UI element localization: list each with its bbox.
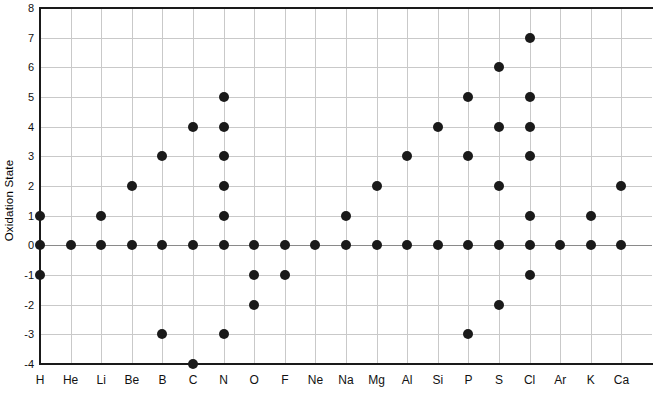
y-axis-tick-labels: 876543210-1-2-3-4	[0, 8, 34, 364]
data-point-Ar-0	[555, 240, 565, 250]
x-axis-tick-labels: HHeLiBeBCNOFNeNaMgAlSiPSClArKCa	[0, 374, 659, 390]
gridline-x-B	[162, 8, 163, 364]
data-point-Cl-4	[525, 122, 535, 132]
gridline-x-Li	[101, 8, 102, 364]
x-tick-label-C: C	[189, 374, 198, 386]
x-tick-label-Li: Li	[97, 374, 106, 386]
y-tick-label-4: 4	[4, 121, 34, 132]
gridline-x-P	[468, 8, 469, 364]
data-point-F--1	[280, 270, 290, 280]
data-point-Cl-5	[525, 92, 535, 102]
data-point-Ne-0	[310, 240, 320, 250]
data-point-K-1	[586, 211, 596, 221]
y-tick-label-8: 8	[4, 3, 34, 14]
data-point-N-4	[219, 122, 229, 132]
gridline-x-Al	[407, 8, 408, 364]
gridline-x-Ar	[560, 8, 561, 364]
x-tick-label-Ar: Ar	[554, 374, 566, 386]
y-axis-line	[39, 7, 41, 365]
y-tick-label-3: 3	[4, 151, 34, 162]
oxidation-state-scatter-chart: Oxidation State 876543210-1-2-3-4 HHeLiB…	[0, 0, 659, 401]
data-point-S--2	[494, 300, 504, 310]
x-tick-label-Be: Be	[124, 374, 139, 386]
data-point-C-0	[188, 240, 198, 250]
data-point-Cl--1	[525, 270, 535, 280]
data-point-Cl-0	[525, 240, 535, 250]
data-point-Ca-0	[616, 240, 626, 250]
gridline-x-Ne	[315, 8, 316, 364]
data-point-Li-0	[96, 240, 106, 250]
data-point-P-0	[463, 240, 473, 250]
data-point-C-4	[188, 122, 198, 132]
gridline-x-C	[193, 8, 194, 364]
data-point-Na-0	[341, 240, 351, 250]
y-tick-label--1: -1	[4, 270, 34, 281]
y-tick-label-7: 7	[4, 32, 34, 43]
gridline-x-He	[71, 8, 72, 364]
data-point-P-5	[463, 92, 473, 102]
x-axis-line	[39, 363, 653, 365]
data-point-Be-0	[127, 240, 137, 250]
data-point-Cl-1	[525, 211, 535, 221]
data-point-N-2	[219, 181, 229, 191]
data-point-Si-4	[433, 122, 443, 132]
x-tick-label-Mg: Mg	[368, 374, 385, 386]
gridline-x-Cl	[530, 8, 531, 364]
gridline-x-O	[254, 8, 255, 364]
x-tick-label-Al: Al	[402, 374, 413, 386]
data-point-Al-3	[402, 151, 412, 161]
data-point-Na-1	[341, 211, 351, 221]
x-tick-label-H: H	[36, 374, 45, 386]
gridline-x-Si	[438, 8, 439, 364]
y-tick-label-2: 2	[4, 181, 34, 192]
data-point-Li-1	[96, 211, 106, 221]
data-point-P-3	[463, 151, 473, 161]
data-point-O--1	[249, 270, 259, 280]
y-tick-label-0: 0	[4, 240, 34, 251]
x-tick-label-K: K	[587, 374, 595, 386]
x-tick-label-P: P	[464, 374, 472, 386]
y-tick-label-6: 6	[4, 62, 34, 73]
gridline-x-K	[591, 8, 592, 364]
data-point-S-4	[494, 122, 504, 132]
data-point-Al-0	[402, 240, 412, 250]
gridline-x-Na	[346, 8, 347, 364]
x-tick-label-Ca: Ca	[614, 374, 629, 386]
x-tick-label-Ne: Ne	[308, 374, 323, 386]
x-tick-label-He: He	[63, 374, 78, 386]
data-point-Be-2	[127, 181, 137, 191]
data-point-K-0	[586, 240, 596, 250]
data-point-Ca-2	[616, 181, 626, 191]
plot-area	[40, 8, 652, 364]
x-tick-label-N: N	[219, 374, 228, 386]
data-point-Mg-0	[372, 240, 382, 250]
data-point-F-0	[280, 240, 290, 250]
y-tick-label--4: -4	[4, 359, 34, 370]
data-point-P--3	[463, 329, 473, 339]
data-point-S-2	[494, 181, 504, 191]
data-point-Cl-3	[525, 151, 535, 161]
x-tick-label-Cl: Cl	[524, 374, 535, 386]
data-point-O--2	[249, 300, 259, 310]
x-tick-label-Na: Na	[338, 374, 353, 386]
data-point-Si-0	[433, 240, 443, 250]
data-point-N-3	[219, 151, 229, 161]
y-tick-label-1: 1	[4, 210, 34, 221]
x-tick-label-B: B	[158, 374, 166, 386]
y-tick-label-5: 5	[4, 92, 34, 103]
y-tick-label--2: -2	[4, 299, 34, 310]
data-point-He-0	[66, 240, 76, 250]
data-point-Mg-2	[372, 181, 382, 191]
data-point-N--3	[219, 329, 229, 339]
plot-frame-top-border	[40, 7, 653, 9]
data-point-B-0	[157, 240, 167, 250]
x-tick-label-O: O	[250, 374, 259, 386]
data-point-S-6	[494, 62, 504, 72]
x-tick-label-Si: Si	[432, 374, 443, 386]
data-point-N-1	[219, 211, 229, 221]
data-point-S-0	[494, 240, 504, 250]
data-point-Cl-7	[525, 33, 535, 43]
y-tick-label--3: -3	[4, 329, 34, 340]
x-tick-label-F: F	[281, 374, 288, 386]
data-point-B--3	[157, 329, 167, 339]
